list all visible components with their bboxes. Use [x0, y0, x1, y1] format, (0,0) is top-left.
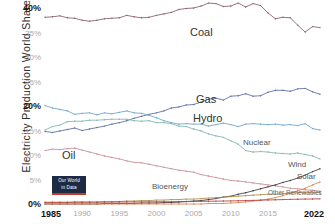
data-point [44, 17, 45, 18]
data-point [148, 164, 149, 165]
data-point [59, 130, 60, 131]
data-point [52, 132, 53, 133]
data-point [163, 110, 164, 111]
data-point [156, 117, 157, 118]
data-point [59, 109, 60, 110]
data-point [163, 201, 164, 202]
y-tick-label-15: 15% [25, 126, 41, 135]
data-point [319, 158, 320, 159]
owid-badge[interactable]: Our World in Data [52, 176, 86, 195]
data-point [290, 17, 291, 18]
data-point [304, 154, 305, 155]
data-point [208, 201, 209, 202]
data-point [148, 201, 149, 202]
plot-area: 40%35%30%25%20%15%10%5%0% 19851990199520… [45, 8, 320, 204]
data-point [59, 15, 60, 16]
data-point [245, 123, 246, 124]
data-point [252, 96, 253, 97]
data-point [319, 181, 320, 182]
owid-badge-line1: Our World [58, 178, 80, 185]
data-point [111, 123, 112, 124]
data-point [297, 199, 298, 200]
data-point [252, 182, 253, 183]
data-point [81, 203, 82, 204]
series-label-nuclear: Nuclear [243, 138, 271, 147]
data-point [186, 126, 187, 127]
data-point [163, 199, 164, 200]
data-point [252, 194, 253, 195]
data-point [89, 203, 90, 204]
data-point [230, 5, 231, 6]
data-point [238, 95, 239, 96]
data-point [275, 18, 276, 19]
data-point [223, 200, 224, 201]
data-point [282, 124, 283, 125]
data-point [148, 17, 149, 18]
data-point [111, 203, 112, 204]
data-point [245, 195, 246, 196]
x-tick-label-1985: 1985 [41, 209, 61, 219]
data-point [223, 178, 224, 179]
data-point [193, 104, 194, 105]
data-point [245, 201, 246, 202]
y-tick-label-40: 40% [23, 3, 41, 13]
data-point [223, 137, 224, 138]
data-point [193, 198, 194, 199]
data-point [96, 114, 97, 115]
data-point [186, 201, 187, 202]
x-tick-label-2015: 2015 [259, 209, 277, 218]
data-point [141, 200, 142, 201]
data-point [208, 197, 209, 198]
data-point [208, 125, 209, 126]
data-point [215, 124, 216, 125]
data-point [52, 148, 53, 149]
data-point [245, 200, 246, 201]
data-point [59, 124, 60, 125]
data-point [200, 174, 201, 175]
data-point [89, 21, 90, 22]
data-point [148, 200, 149, 201]
data-point [44, 129, 45, 130]
data-point [215, 177, 216, 178]
data-point [67, 203, 68, 204]
data-point [260, 194, 261, 195]
data-point [267, 151, 268, 152]
data-point [156, 122, 157, 123]
data-point [96, 120, 97, 121]
data-point [260, 183, 261, 184]
data-point [319, 129, 320, 130]
data-point [200, 198, 201, 199]
data-point [260, 95, 261, 96]
data-point [178, 106, 179, 107]
data-point [81, 120, 82, 121]
data-point [59, 202, 60, 203]
y-tick-label-20: 20% [23, 101, 41, 111]
data-point [186, 123, 187, 124]
data-point [133, 118, 134, 119]
data-point [297, 88, 298, 89]
y-tick-label-35: 35% [25, 28, 41, 37]
data-point [178, 201, 179, 202]
data-point [74, 120, 75, 121]
data-point [193, 203, 194, 204]
data-point [193, 201, 194, 202]
x-tick-label-1990: 1990 [73, 209, 91, 218]
data-point [171, 12, 172, 13]
x-tick-label-2010: 2010 [222, 209, 240, 218]
data-point [275, 184, 276, 185]
data-point [52, 107, 53, 108]
data-point [245, 181, 246, 182]
data-point [89, 128, 90, 129]
series-label-solar: Solar [297, 172, 316, 181]
data-point [156, 203, 157, 204]
data-point [267, 92, 268, 93]
data-point [141, 116, 142, 117]
data-point [208, 2, 209, 3]
data-point [126, 201, 127, 202]
data-point [238, 126, 239, 127]
data-point [200, 130, 201, 131]
series-lines [45, 8, 320, 204]
data-point [133, 120, 134, 121]
data-point [74, 18, 75, 19]
data-point [141, 162, 142, 163]
